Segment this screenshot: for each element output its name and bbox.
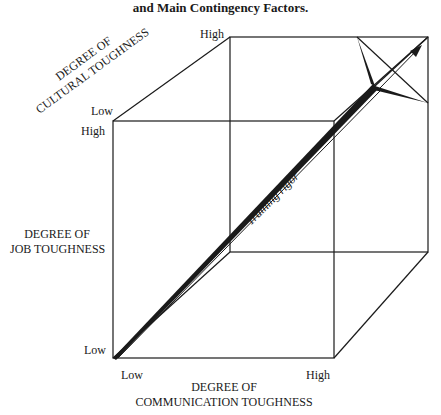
job-axis-title-line-1: DEGREE OF [10, 227, 104, 242]
communication-axis-title-line-1: DEGREE OF [120, 380, 328, 395]
job-low-label: Low [84, 343, 106, 357]
job-axis-title-line-2: JOB TOUGHNESS [10, 242, 104, 257]
job-high-label: High [81, 124, 105, 138]
corner-wedge-2 [374, 86, 428, 103]
corner-wedge-1 [357, 37, 375, 86]
communication-axis-title-line-2: COMMUNICATION TOUGHNESS [120, 395, 328, 410]
cultural-low-label: Low [91, 104, 113, 118]
training-rigor-wedge [113, 84, 378, 360]
front-face [113, 121, 334, 358]
communication-axis-title: DEGREE OF COMMUNICATION TOUGHNESS [120, 380, 328, 410]
edge-bottom-right [334, 252, 428, 358]
cultural-high-label: High [200, 27, 224, 41]
job-axis-title: DEGREE OF JOB TOUGHNESS [10, 227, 104, 257]
